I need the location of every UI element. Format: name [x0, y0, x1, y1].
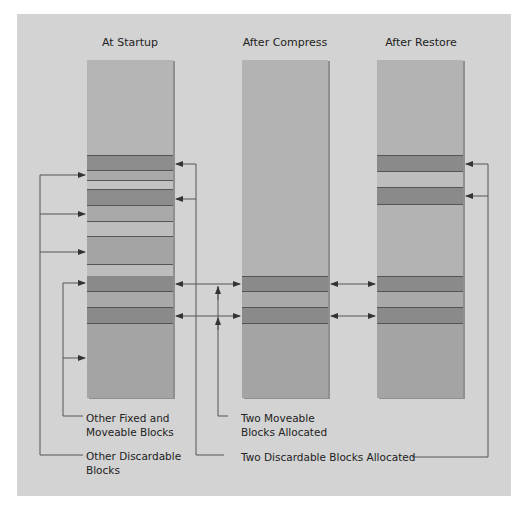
label-line: Other Discardable: [86, 449, 181, 463]
label-other-fixed-moveable: Other Fixed and Moveable Blocks: [86, 411, 174, 439]
label-two-moveable: Two Moveable Blocks Allocated: [241, 411, 327, 439]
two-discardable-bracket-left: [196, 164, 224, 455]
label-line: Moveable Blocks: [86, 425, 174, 439]
label-two-discardable: Two Discardable Blocks Allocated: [241, 450, 415, 464]
fixed-moveable-bracket: [63, 283, 83, 416]
label-line: Other Fixed and: [86, 411, 174, 425]
two-discardable-bracket-right: [412, 164, 488, 457]
label-line: Two Moveable: [241, 411, 327, 425]
label-other-discardable: Other Discardable Blocks: [86, 449, 181, 477]
discardable-bracket: [40, 175, 83, 455]
label-line: Blocks: [86, 463, 181, 477]
label-line: Blocks Allocated: [241, 425, 327, 439]
two-moveable-bracket: [218, 286, 228, 416]
